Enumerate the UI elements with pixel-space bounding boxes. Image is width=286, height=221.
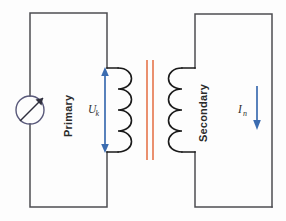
primary-winding	[118, 68, 132, 152]
secondary-side-label: Secondary	[197, 83, 209, 142]
secondary-circuit-wiring	[182, 14, 272, 207]
voltage-measurement-arrow	[101, 67, 109, 153]
current-direction-arrow	[253, 86, 261, 130]
primary-top-wire	[30, 13, 107, 96]
primary-side-label: Primary	[62, 94, 74, 137]
current-label: I n	[237, 103, 247, 118]
voltage-subscript: k	[96, 109, 100, 118]
diagram-canvas: Primary Secondary U k I n	[0, 0, 286, 221]
iron-core	[147, 60, 153, 160]
current-arrowhead-down-icon	[253, 120, 261, 130]
secondary-bottom-wire	[195, 152, 272, 207]
current-subscript: n	[243, 109, 247, 118]
secondary-winding	[169, 68, 183, 152]
variable-ac-source[interactable]	[16, 96, 44, 124]
voltage-label: U k	[88, 103, 100, 118]
transformer-circuit-diagram: Primary Secondary U k I n	[0, 0, 286, 221]
